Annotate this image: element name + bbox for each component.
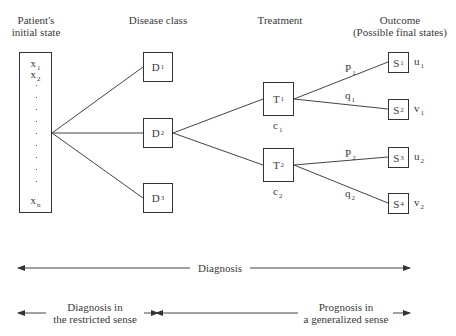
treatment-box-t2: T2 [263, 148, 294, 182]
disease-box-d2: D2 [143, 118, 173, 148]
state-xn: xn [20, 195, 51, 211]
ellipsis-dot [36, 181, 37, 182]
disease-box-d1: D1 [143, 52, 173, 82]
prob-q1: q1 [345, 89, 355, 104]
ellipsis-dot [36, 85, 37, 86]
utility-u2: u2 [414, 150, 424, 165]
edge-patient-d3 [52, 133, 143, 198]
scope-label-prognosis: Prognosis in a generalized sense [300, 301, 392, 325]
outcome-box-s1: S1 [388, 52, 409, 73]
outcome-box-s3: S3 [388, 147, 409, 168]
utility-u1: u1 [414, 55, 424, 70]
edge-t1-s1 [294, 62, 388, 99]
header-outcome: Outcome (Possible final states) [345, 14, 455, 38]
ellipsis-dot [36, 169, 37, 170]
utility-v1: v1 [414, 102, 424, 117]
edge-t1-s2 [294, 99, 388, 109]
treatment-cost-c1: c1 [273, 119, 282, 134]
state-x2: x2 [20, 69, 51, 85]
treatment-cost-c2: c2 [273, 185, 282, 200]
prob-q2: q2 [345, 187, 355, 202]
outcome-box-s4: S4 [388, 193, 409, 214]
header-patient-initial-state: Patient's initial state [6, 14, 66, 38]
ellipsis-dot [36, 145, 37, 146]
edge-t2-s3 [294, 157, 388, 165]
outcome-box-s2: S2 [388, 99, 409, 120]
edge-d2-t1 [173, 99, 263, 133]
ellipsis-dot [36, 157, 37, 158]
ellipsis-dot [36, 121, 37, 122]
prob-p2: P2 [345, 147, 356, 162]
disease-box-d3: D3 [143, 183, 173, 213]
scope-label-restricted-diagnosis: Diagnosis in the restricted sense [48, 301, 142, 325]
treatment-box-t1: T1 [263, 82, 294, 116]
edge-d2-t2 [173, 133, 263, 165]
ellipsis-dot [36, 133, 37, 134]
scope-label-diagnosis: Diagnosis [192, 262, 248, 274]
ellipsis-dot [36, 109, 37, 110]
patient-state-box: x1 x2 xn [19, 52, 52, 213]
header-treatment: Treatment [250, 14, 310, 26]
utility-v2: v2 [414, 196, 424, 211]
ellipsis-dot [36, 97, 37, 98]
prob-p1: P1 [345, 62, 356, 77]
edge-t2-s4 [294, 165, 388, 203]
diagram-connectors [0, 0, 456, 336]
edge-patient-d1 [52, 67, 143, 133]
header-disease-class: Disease class [118, 14, 198, 26]
